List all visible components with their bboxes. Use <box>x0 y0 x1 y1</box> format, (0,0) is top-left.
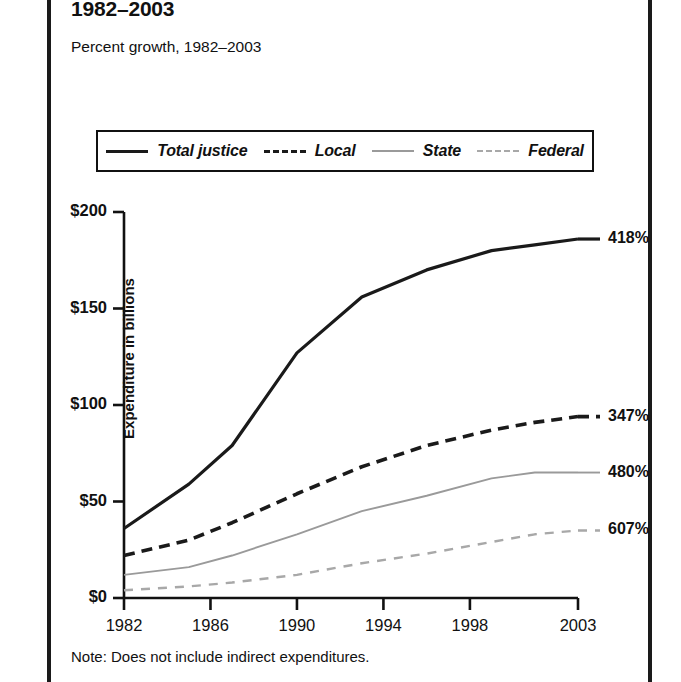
legend-item-total-justice: Total justice <box>106 142 247 160</box>
legend-label-federal: Federal <box>528 142 584 160</box>
legend-swatch-federal-icon <box>477 150 519 152</box>
x-axis-tick-label: 1990 <box>279 616 316 635</box>
chart-plot-area <box>51 190 648 640</box>
line-chart: Expenditure in billions $0$50$100$150$20… <box>51 190 648 640</box>
series-line-total-justice <box>124 239 578 529</box>
legend-label-total-justice: Total justice <box>157 142 247 160</box>
growth-annotation-total-justice: 418% <box>608 229 649 247</box>
legend-swatch-local-icon <box>264 150 306 153</box>
figure-content: 1982–2003 Percent growth, 1982–2003 Tota… <box>51 0 648 682</box>
growth-annotation-federal: 607% <box>608 520 649 538</box>
page-rule-right <box>648 0 652 682</box>
legend-item-federal: Federal <box>477 142 584 160</box>
x-axis-tick-label: 1998 <box>452 616 489 635</box>
legend-label-state: State <box>423 142 461 160</box>
legend-swatch-state-icon <box>372 150 414 152</box>
x-axis-tick-label: 1982 <box>106 616 143 635</box>
legend-swatch-total-justice-icon <box>106 150 148 153</box>
growth-annotation-state: 480% <box>608 463 649 481</box>
page-subtitle: Percent growth, 1982–2003 <box>71 38 261 56</box>
series-line-state <box>124 473 578 575</box>
chart-legend: Total justice Local State Federal <box>96 130 594 172</box>
legend-label-local: Local <box>315 142 356 160</box>
x-axis-tick-label: 2003 <box>560 616 597 635</box>
x-axis-tick-label: 1994 <box>365 616 402 635</box>
series-line-local <box>124 417 578 556</box>
figure-note: Note: Does not include indirect expendit… <box>71 648 370 665</box>
scanned-page: 1982–2003 Percent growth, 1982–2003 Tota… <box>0 0 681 682</box>
growth-annotation-local: 347% <box>608 407 649 425</box>
legend-item-local: Local <box>264 142 356 160</box>
legend-item-state: State <box>372 142 461 160</box>
series-line-federal <box>124 530 578 590</box>
page-title: 1982–2003 <box>71 0 174 22</box>
x-axis-tick-label: 1986 <box>192 616 229 635</box>
